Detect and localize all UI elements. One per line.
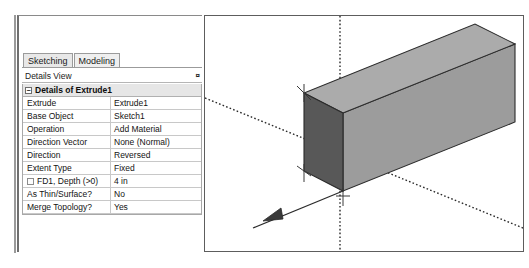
design-modeler-window: Sketching Modeling Details View ¤ − Deta… (0, 0, 529, 268)
tabs-underline (22, 67, 202, 68)
parameter-checkbox[interactable] (27, 178, 34, 185)
group-title: Details of Extrude1 (35, 85, 112, 95)
extrude-direction-arrow (253, 191, 343, 228)
table-row[interactable]: FD1, Depth (>0) 4 in (23, 175, 201, 188)
panel-tabs: Sketching Modeling (23, 51, 121, 68)
property-name: Extent Type (23, 162, 111, 174)
details-property-grid: − Details of Extrude1 Extrude Extrude1 B… (22, 84, 202, 215)
table-row[interactable]: Extent Type Fixed (23, 162, 201, 175)
table-row[interactable]: Merge Topology? Yes (23, 201, 201, 214)
group-cell: − Details of Extrude1 (23, 84, 201, 96)
tab-modeling[interactable]: Modeling (74, 53, 121, 68)
collapse-expander-icon[interactable]: − (25, 87, 32, 94)
table-row[interactable]: Base Object Sketch1 (23, 110, 201, 123)
property-name-label: FD1, Depth (>0) (37, 176, 98, 186)
property-group-header[interactable]: − Details of Extrude1 (23, 84, 201, 97)
graphics-viewport[interactable] (204, 15, 524, 252)
property-value[interactable]: Sketch1 (111, 110, 201, 122)
property-name: FD1, Depth (>0) (23, 175, 111, 187)
property-name: Direction (23, 149, 111, 161)
property-name: As Thin/Surface? (23, 188, 111, 200)
property-value[interactable]: No (111, 188, 201, 200)
details-view-title: Details View (25, 71, 72, 81)
property-value[interactable]: Fixed (111, 162, 201, 174)
details-view-panel: Sketching Modeling Details View ¤ − Deta… (17, 15, 202, 252)
table-row[interactable]: Extrude Extrude1 (23, 97, 201, 110)
pin-icon[interactable]: ¤ (196, 72, 199, 80)
property-name: Direction Vector (23, 136, 111, 148)
table-row[interactable]: Direction Reversed (23, 149, 201, 162)
property-value[interactable]: Add Material (111, 123, 201, 135)
table-row[interactable]: Direction Vector None (Normal) (23, 136, 201, 149)
viewport-canvas (205, 16, 523, 251)
property-name: Merge Topology? (23, 201, 111, 213)
property-value[interactable]: Extrude1 (111, 97, 201, 109)
property-value[interactable]: Yes (111, 201, 201, 213)
property-value[interactable]: None (Normal) (111, 136, 201, 148)
tab-sketching[interactable]: Sketching (23, 53, 73, 68)
table-row[interactable]: As Thin/Surface? No (23, 188, 201, 201)
table-row[interactable]: Operation Add Material (23, 123, 201, 136)
property-name: Extrude (23, 97, 111, 109)
property-name: Operation (23, 123, 111, 135)
property-value[interactable]: 4 in (111, 175, 201, 187)
details-view-header: Details View ¤ (22, 69, 202, 83)
property-name: Base Object (23, 110, 111, 122)
property-value[interactable]: Reversed (111, 149, 201, 161)
